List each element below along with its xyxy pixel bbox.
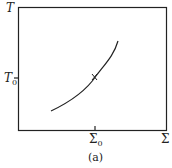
plot-frame — [19, 8, 167, 131]
x-tick-label: Σ0 — [89, 133, 103, 148]
figure-caption: (a) — [88, 152, 103, 163]
diagram-canvas — [0, 0, 172, 168]
y-tick-label: T0 — [4, 72, 17, 87]
y-axis-label: T — [6, 2, 14, 14]
y-tick-subscript: 0 — [12, 78, 17, 87]
y-tick-symbol: T — [4, 71, 12, 85]
curve — [51, 41, 118, 111]
x-tick-subscript: 0 — [97, 139, 102, 148]
x-axis-label: Σ — [161, 133, 169, 145]
